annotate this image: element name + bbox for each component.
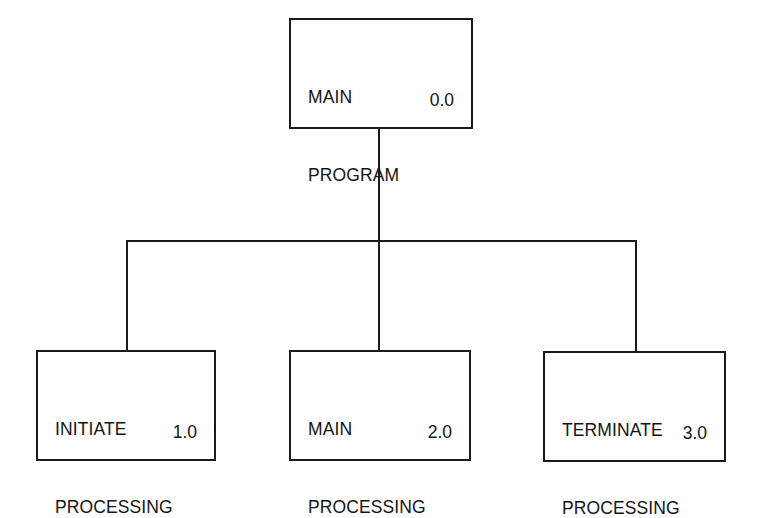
node-label-line-1: MAIN xyxy=(308,84,399,110)
node-label: TERMINATE PROCESSING xyxy=(562,365,680,518)
node-number: 1.0 xyxy=(173,422,197,442)
node-label: MAIN PROGRAM xyxy=(308,32,399,240)
node-main-processing[interactable]: MAIN PROCESSING 2.0 xyxy=(289,350,471,461)
node-initiate-processing[interactable]: INITIATE PROCESSING 1.0 xyxy=(36,350,216,461)
node-label-line-2: PROCESSING xyxy=(562,495,680,518)
node-number: 0.0 xyxy=(430,90,454,110)
node-label-line-2: PROGRAM xyxy=(308,162,399,188)
node-terminate-processing[interactable]: TERMINATE PROCESSING 3.0 xyxy=(543,351,726,462)
connector-to-node-2 xyxy=(378,240,380,352)
connector-to-node-3 xyxy=(635,240,637,353)
node-label-line-1: TERMINATE xyxy=(562,417,680,443)
node-main-program[interactable]: MAIN PROGRAM 0.0 xyxy=(289,18,473,129)
node-label-line-2: PROCESSING xyxy=(308,494,426,518)
node-label: MAIN PROCESSING xyxy=(308,364,426,518)
node-label-line-1: INITIATE xyxy=(55,416,173,442)
node-label: INITIATE PROCESSING xyxy=(55,364,173,518)
node-number: 3.0 xyxy=(683,423,707,443)
node-label-line-2: PROCESSING xyxy=(55,494,173,518)
node-number: 2.0 xyxy=(428,422,452,442)
connector-to-node-1 xyxy=(126,240,128,352)
node-label-line-1: MAIN xyxy=(308,416,426,442)
connector-horizontal-bus xyxy=(126,240,637,242)
